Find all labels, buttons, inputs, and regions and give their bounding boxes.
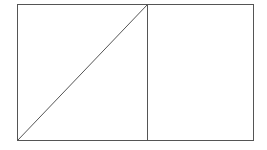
diagram-canvas — [0, 0, 267, 150]
diagonal-line — [18, 5, 148, 141]
outer-rectangle — [18, 5, 254, 141]
